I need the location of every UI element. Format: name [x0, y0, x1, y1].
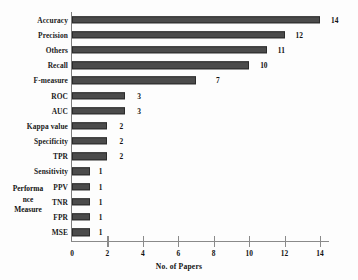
category-label: FPR [53, 213, 71, 222]
bar [72, 168, 90, 175]
x-axis-tick [107, 236, 108, 247]
category-label: MSE [52, 228, 71, 237]
category-label: ROC [51, 91, 71, 100]
bar-value-label: 1 [99, 182, 103, 191]
bar-row: Others11 [0, 42, 358, 57]
bar-row: F-measure7 [0, 73, 358, 88]
bar [72, 198, 90, 205]
x-axis-tick-label: 6 [176, 249, 180, 258]
x-axis-tick-label: 12 [281, 249, 288, 258]
bar-row: Kappa value2 [0, 118, 358, 133]
x-axis-tick-label: 8 [212, 249, 216, 258]
bar-row: Specificity2 [0, 134, 358, 149]
bar-value-label: 14 [331, 15, 338, 24]
x-axis-tick [249, 236, 250, 247]
y-axis-title-line-2: nce [4, 195, 52, 206]
y-axis-title-line-3: Measure [4, 205, 52, 216]
x-axis-tick-label: 10 [245, 249, 252, 258]
bar [72, 137, 107, 144]
bar-row: TPR2 [0, 149, 358, 164]
bar [72, 183, 90, 190]
x-axis-tick [285, 236, 286, 247]
bar-value-label: 10 [260, 61, 267, 70]
bar-value-label: 1 [99, 213, 103, 222]
category-label: Recall [48, 61, 71, 70]
x-axis-line [71, 241, 329, 242]
bar-value-label: 2 [119, 121, 123, 130]
bar [72, 61, 249, 68]
category-label: Precision [38, 30, 71, 39]
bar [72, 229, 90, 236]
bar-value-label: 7 [216, 76, 220, 85]
x-axis-title: No. of Papers [0, 262, 358, 271]
category-label: Sensitivity [34, 167, 71, 176]
bar-value-label: 3 [137, 106, 141, 115]
bar-value-label: 1 [99, 228, 103, 237]
bar [72, 31, 285, 38]
plot-area: Accuracy14Precision12Others11Recall10F-m… [0, 0, 358, 280]
bar [72, 153, 107, 160]
category-label: Kappa value [27, 121, 71, 130]
category-label: TNR [52, 197, 71, 206]
category-label: AUC [52, 106, 71, 115]
x-axis-tick [178, 236, 179, 247]
bar-value-label: 11 [278, 45, 285, 54]
category-label: F-measure [34, 76, 71, 85]
bar-row: Accuracy14 [0, 12, 358, 27]
bar-row: TNR1 [0, 194, 358, 209]
bar [72, 92, 125, 99]
bar [72, 16, 320, 23]
x-axis-tick-label: 2 [106, 249, 110, 258]
category-label: Specificity [34, 137, 71, 146]
bar-row: AUC3 [0, 103, 358, 118]
category-label: Accuracy [37, 15, 71, 24]
bar-row: PPV1 [0, 179, 358, 194]
category-label: PPV [53, 182, 71, 191]
x-axis-tick-label: 14 [316, 249, 323, 258]
bar-row: Precision12 [0, 27, 358, 42]
category-label: Others [46, 45, 71, 54]
x-axis-tick [214, 236, 215, 247]
bar [72, 46, 267, 53]
bar-chart: Accuracy14Precision12Others11Recall10F-m… [0, 0, 358, 280]
y-axis-title-line-1: Performa [4, 184, 52, 195]
bar-value-label: 2 [119, 152, 123, 161]
bar-row: Recall10 [0, 58, 358, 73]
bar [72, 107, 125, 114]
bar [72, 213, 90, 220]
x-axis-tick [320, 236, 321, 247]
x-axis-tick-label: 4 [141, 249, 145, 258]
bar-row: ROC3 [0, 88, 358, 103]
x-axis-tick [143, 236, 144, 247]
y-axis-title: Performa nce Measure [4, 184, 52, 216]
category-label: TPR [53, 152, 71, 161]
bar-value-label: 2 [119, 137, 123, 146]
bar [72, 122, 107, 129]
bar-row: Sensitivity1 [0, 164, 358, 179]
x-axis-tick-label: 0 [70, 249, 74, 258]
bar-value-label: 1 [99, 167, 103, 176]
bar-row: FPR1 [0, 209, 358, 224]
bar-rows: Accuracy14Precision12Others11Recall10F-m… [0, 12, 358, 241]
bar-value-label: 3 [137, 91, 141, 100]
bar-value-label: 12 [296, 30, 303, 39]
bar [72, 77, 196, 84]
bar-value-label: 1 [99, 197, 103, 206]
